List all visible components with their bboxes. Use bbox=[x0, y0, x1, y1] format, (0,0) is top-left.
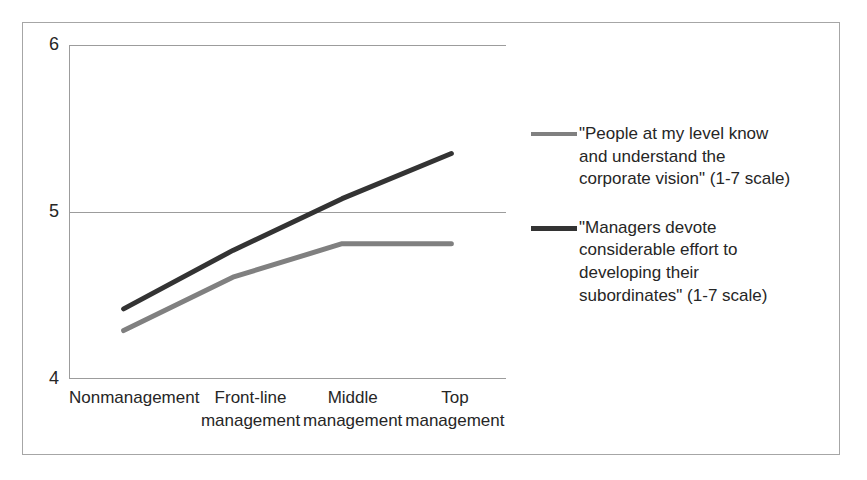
legend-label-line-4: subordinates" (1-7 scale) bbox=[579, 285, 767, 308]
x-label-line-1: Front-line bbox=[199, 387, 301, 410]
series-line-people-vision bbox=[124, 244, 452, 331]
x-label-line-2: management bbox=[404, 410, 506, 433]
legend-label-managers-develop: "Managers devote considerable effort to … bbox=[579, 217, 767, 307]
x-label-nonmanagement: Nonmanagement bbox=[69, 387, 199, 433]
chart-figure: 6 5 4 Nonmanagement Front-line managemen… bbox=[22, 22, 840, 455]
legend-entry-managers-develop: "Managers devote considerable effort to … bbox=[531, 217, 831, 307]
chart-legend: "People at my level know and understand … bbox=[531, 123, 831, 333]
x-label-top-management: Top management bbox=[404, 387, 506, 433]
legend-label-line-1: "People at my level know bbox=[579, 123, 790, 146]
y-axis-tick-4: 4 bbox=[29, 369, 59, 387]
legend-label-line-3: developing their bbox=[579, 262, 767, 285]
x-label-line-1: Nonmanagement bbox=[69, 387, 199, 410]
legend-label-line-1: "Managers devote bbox=[579, 217, 767, 240]
series-line-managers-develop bbox=[124, 154, 452, 309]
legend-swatch-people-vision bbox=[531, 132, 577, 136]
legend-entry-people-vision: "People at my level know and understand … bbox=[531, 123, 831, 191]
legend-label-people-vision: "People at my level know and understand … bbox=[579, 123, 790, 191]
x-label-line-2: management bbox=[302, 410, 404, 433]
series-lines bbox=[69, 45, 506, 379]
legend-swatch-managers-develop bbox=[531, 226, 577, 231]
x-label-middle-management: Middle management bbox=[302, 387, 404, 433]
y-axis-tick-6: 6 bbox=[29, 35, 59, 53]
x-label-line-1: Middle bbox=[302, 387, 404, 410]
x-axis-labels: Nonmanagement Front-line management Midd… bbox=[69, 387, 506, 433]
x-label-line-2: management bbox=[199, 410, 301, 433]
x-label-front-line-management: Front-line management bbox=[199, 387, 301, 433]
y-axis-tick-5: 5 bbox=[29, 202, 59, 220]
plot-area bbox=[69, 45, 506, 379]
legend-label-line-3: corporate vision" (1-7 scale) bbox=[579, 168, 790, 191]
legend-label-line-2: considerable effort to bbox=[579, 239, 767, 262]
legend-label-line-2: and understand the bbox=[579, 146, 790, 169]
x-label-line-1: Top bbox=[404, 387, 506, 410]
